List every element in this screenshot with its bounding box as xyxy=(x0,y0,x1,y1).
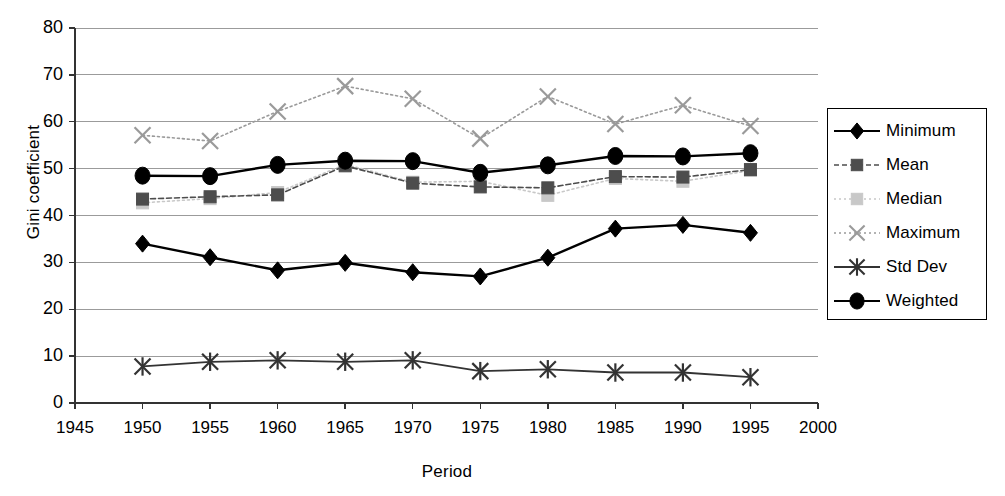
legend-item-mean[interactable]: Mean xyxy=(828,148,988,182)
legend-label: Minimum xyxy=(886,121,956,141)
data-point-diamond-marker xyxy=(203,249,217,266)
data-point-circle-marker xyxy=(850,293,864,309)
data-point-circle-marker xyxy=(338,152,353,169)
data-point-diamond-marker xyxy=(850,123,863,139)
legend-label: Maximum xyxy=(886,223,960,243)
legend-key-icon xyxy=(828,114,886,148)
data-point-square-marker xyxy=(744,164,756,176)
data-point-square-marker xyxy=(474,181,486,193)
data-point-square-marker xyxy=(407,177,419,189)
legend-key-icon xyxy=(828,182,886,216)
legend-label: Mean xyxy=(886,155,929,175)
data-point-cross-marker xyxy=(540,88,556,104)
data-point-circle-marker xyxy=(540,157,555,174)
legend-item-minimum[interactable]: Minimum xyxy=(828,114,988,148)
data-point-cross-marker xyxy=(405,91,421,107)
data-point-square-marker xyxy=(272,189,284,201)
data-point-square-marker xyxy=(851,193,862,204)
data-point-diamond-marker xyxy=(271,262,285,279)
data-point-square-marker xyxy=(137,193,149,205)
data-point-diamond-marker xyxy=(743,224,757,241)
legend-key-icon xyxy=(828,250,886,284)
data-point-diamond-marker xyxy=(338,254,352,271)
data-point-cross-marker xyxy=(607,116,623,132)
legend-label: Std Dev xyxy=(886,257,947,277)
series-line xyxy=(143,360,751,377)
legend-key-icon xyxy=(828,148,886,182)
data-point-circle-marker xyxy=(270,156,285,173)
data-point-cross-marker xyxy=(337,78,353,94)
data-point-square-marker xyxy=(851,159,862,170)
legend-label: Median xyxy=(886,189,942,209)
data-point-square-marker xyxy=(542,182,554,194)
data-point-diamond-marker xyxy=(608,220,622,237)
series-maximum xyxy=(135,78,759,149)
legend: MinimumMeanMedianMaximumStd DevWeighted xyxy=(827,108,987,320)
data-point-cross-marker xyxy=(675,97,691,113)
data-point-cross-marker xyxy=(270,103,286,119)
data-point-circle-marker xyxy=(473,164,488,181)
data-point-diamond-marker xyxy=(406,264,420,281)
legend-key-icon xyxy=(828,284,886,318)
legend-item-median[interactable]: Median xyxy=(828,182,988,216)
data-point-diamond-marker xyxy=(473,268,487,285)
data-point-circle-marker xyxy=(203,168,218,185)
data-point-circle-marker xyxy=(608,147,623,164)
data-point-diamond-marker xyxy=(136,235,150,252)
data-point-diamond-marker xyxy=(676,216,690,233)
series-line xyxy=(143,225,751,277)
legend-item-std-dev[interactable]: Std Dev xyxy=(828,250,988,284)
data-point-diamond-marker xyxy=(541,249,555,266)
legend-label: Weighted xyxy=(886,291,958,311)
data-point-circle-marker xyxy=(743,145,758,162)
chart-container: Gini coefficient Period 0102030405060708… xyxy=(0,0,1005,496)
series-line xyxy=(143,164,751,202)
legend-key-icon xyxy=(828,216,886,250)
data-point-cross-marker xyxy=(849,225,864,240)
data-point-cross-marker xyxy=(742,118,758,134)
data-point-circle-marker xyxy=(135,167,150,184)
legend-item-maximum[interactable]: Maximum xyxy=(828,216,988,250)
series-line xyxy=(143,86,751,141)
data-point-circle-marker xyxy=(405,153,420,170)
data-point-square-marker xyxy=(609,171,621,183)
data-point-square-marker xyxy=(204,191,216,203)
data-point-cross-marker xyxy=(472,131,488,147)
data-point-circle-marker xyxy=(675,148,690,165)
series-line xyxy=(143,153,751,176)
legend-item-weighted[interactable]: Weighted xyxy=(828,284,988,318)
series-minimum xyxy=(136,216,758,285)
series-weighted xyxy=(135,145,758,185)
data-point-square-marker xyxy=(677,171,689,183)
